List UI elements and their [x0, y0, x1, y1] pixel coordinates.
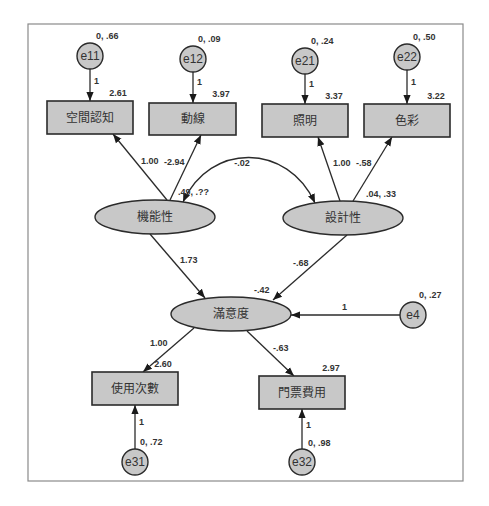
latent-variable-label: 滿意度	[213, 306, 249, 321]
intercept-label: 2.97	[322, 363, 340, 373]
path-coefficient: 1	[411, 77, 416, 87]
path-coefficient: -.58	[356, 158, 372, 168]
error-variance-label: 0, .98	[308, 438, 331, 448]
error-term-label: e32	[292, 455, 312, 469]
covariance-label: -.02	[234, 158, 250, 168]
error-variance-label: 0, .72	[140, 437, 163, 447]
path-coefficient: 1.00	[333, 158, 351, 168]
diagram-frame	[28, 24, 463, 481]
path-coefficient: 1	[197, 77, 202, 87]
error-variance-label: 0, .66	[96, 31, 119, 41]
error-term-label: e12	[183, 52, 203, 66]
error-term-label: e4	[406, 308, 420, 322]
observed-variable-label: 動線	[181, 111, 205, 126]
observed-variable-label: 色彩	[395, 114, 419, 128]
error-term-label: e21	[295, 54, 315, 68]
latent-params: .04, .33	[366, 189, 396, 199]
path-coefficient: 1	[139, 417, 144, 427]
intercept-label: 2.61	[109, 88, 127, 98]
error-variance-label: 0, .24	[311, 36, 334, 46]
path-coefficient: -.63	[273, 343, 289, 353]
error-variance-label: 0, .27	[419, 290, 442, 300]
observed-variable-label: 空間認知	[66, 110, 114, 125]
intercept-label: 3.37	[325, 91, 343, 101]
intercept-label: 3.97	[212, 89, 230, 99]
latent-variable-label: 機能性	[137, 209, 173, 224]
observed-variable-label: 照明	[293, 114, 317, 128]
intercept-label: 2.60	[154, 359, 172, 369]
path-coefficient: -.68	[293, 258, 309, 268]
sem-path-diagram: 機能性設計性滿意度空間認知動線照明色彩使用次數門票費用e11e12e21e22e…	[0, 0, 489, 506]
error-term-label: e22	[397, 50, 417, 64]
path-coefficient: 1.00	[150, 338, 168, 348]
intercept-label: 3.22	[427, 91, 445, 101]
path-coefficient: 1.00	[141, 156, 159, 166]
latent-params: -.42	[254, 285, 270, 295]
path-coefficient: 1	[342, 302, 347, 312]
latent-variable-label: 設計性	[325, 210, 361, 225]
error-term-label: e11	[80, 49, 99, 63]
observed-variable-label: 門票費用	[278, 385, 326, 400]
latent-params: .49, .??	[178, 187, 209, 197]
observed-variable-label: 使用次數	[111, 381, 159, 396]
path-coefficient: 1	[309, 79, 314, 89]
path-coefficient: -2.94	[164, 157, 185, 167]
path-coefficient: 1	[94, 76, 99, 86]
error-term-label: e31	[125, 455, 145, 469]
path-coefficient: 1	[306, 420, 311, 430]
error-variance-label: 0, .09	[198, 34, 221, 44]
path-coefficient: 1.73	[180, 255, 198, 265]
error-variance-label: 0, .50	[413, 32, 436, 42]
